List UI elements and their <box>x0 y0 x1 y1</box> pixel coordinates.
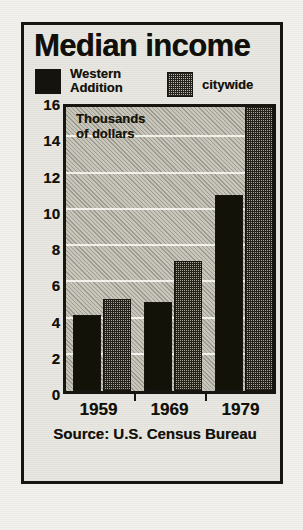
bar-1979-citywide <box>245 104 273 391</box>
y-tick-label: 2 <box>30 349 60 366</box>
y-tick-label: 0 <box>30 386 60 403</box>
x-axis: 195919691979 <box>63 400 276 424</box>
x-tick-label-1969: 1969 <box>151 400 189 420</box>
plot-annotation-units: Thousands of dollars <box>76 111 145 141</box>
legend-label-western-addition: Western Addition <box>70 67 123 95</box>
legend-swatch-western-addition <box>35 69 61 94</box>
bar-1959-citywide <box>103 299 131 391</box>
source-attribution: Source: U.S. Census Bureau <box>30 425 280 442</box>
bar-1959-western-addition <box>73 315 101 391</box>
bar-1969-western-addition <box>144 302 172 391</box>
legend-label-citywide: citywide <box>202 78 253 92</box>
scanned-page-background: Median income Western Addition citywide … <box>0 0 303 530</box>
bar-1969-citywide <box>174 261 202 392</box>
x-tick-label-1979: 1979 <box>222 400 260 420</box>
plot-area: Thousands of dollars <box>63 104 276 394</box>
y-tick-label: 6 <box>30 277 60 294</box>
chart-title: Median income <box>34 30 278 61</box>
y-tick-label: 10 <box>30 204 60 221</box>
y-tick-label: 12 <box>30 168 60 185</box>
y-tick-label: 8 <box>30 241 60 258</box>
bar-1979-western-addition <box>215 195 243 391</box>
legend-swatch-citywide <box>167 72 193 97</box>
chart-legend: Western Addition citywide <box>35 67 281 101</box>
bars-layer <box>66 107 273 391</box>
plot-wrapper: 0246810121416 Thousands of dollars 19591… <box>30 104 280 446</box>
legend-item-citywide: citywide <box>167 72 253 97</box>
legend-item-western-addition: Western Addition <box>35 67 123 95</box>
chart-figure-frame: Median income Western Addition citywide … <box>21 22 283 484</box>
y-tick-label: 16 <box>30 96 60 113</box>
y-tick-label: 4 <box>30 313 60 330</box>
y-axis: 0246810121416 <box>30 104 60 394</box>
x-tick-label-1959: 1959 <box>80 400 118 420</box>
y-tick-label: 14 <box>30 132 60 149</box>
